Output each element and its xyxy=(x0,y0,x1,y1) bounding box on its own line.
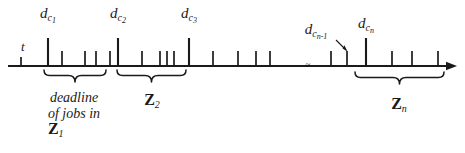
axis-break-symbol: ≈ xyxy=(306,60,311,70)
deadline-label-dcn: dcn xyxy=(358,16,374,31)
deadline-label-dc1: dc1 xyxy=(40,6,56,21)
time-axis-origin-label: t xyxy=(21,40,25,53)
group-caption-line: deadline xyxy=(48,90,100,106)
deadline-label-dc3: dc3 xyxy=(181,6,197,21)
time-axis-arrowhead xyxy=(446,62,457,70)
group-caption-line: of jobs in xyxy=(48,106,100,122)
deadline-label-dc2: dc2 xyxy=(110,6,126,21)
group-set-label: Z1 xyxy=(48,121,100,137)
brace-z2 xyxy=(117,70,186,82)
group-set-label: Zn xyxy=(391,96,407,112)
group-set-label: Z2 xyxy=(144,92,160,108)
brace-z1 xyxy=(44,70,106,82)
deadline-leader-arrowhead-dcn-1 xyxy=(343,45,348,51)
group-caption-z1: deadlineof jobs inZ1 xyxy=(48,90,100,137)
group-caption-z2: Z2 xyxy=(144,92,160,108)
deadline-label-dcn-1: dcn-1 xyxy=(305,22,328,37)
brace-zn xyxy=(355,72,444,84)
timeline-figure: ≈ t dc1 dc2 dc3 dcn-1 dcn deadlineof job… xyxy=(0,0,465,153)
group-caption-zn: Zn xyxy=(391,96,407,112)
